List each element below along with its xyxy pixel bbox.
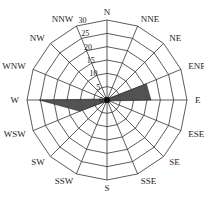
direction-label-ne: NE: [169, 33, 181, 43]
direction-label-w: W: [11, 95, 20, 105]
direction-label-nw: NW: [30, 33, 45, 43]
direction-label-ene: ENE: [188, 61, 204, 71]
tick-label: 20: [84, 43, 92, 52]
tick-label: 10: [90, 69, 98, 78]
wind-rose-chart: 051015202530 NNNENEENEEESESESSESSSWSWWSW…: [0, 0, 204, 200]
direction-label-n: N: [104, 7, 111, 17]
tick-label: 5: [96, 83, 100, 92]
direction-label-wnw: WNW: [2, 61, 26, 71]
direction-label-se: SE: [169, 157, 180, 167]
grid-spoke: [107, 100, 164, 157]
direction-label-wsw: WSW: [4, 129, 27, 139]
direction-label-nne: NNE: [141, 14, 160, 24]
center-dot: [104, 97, 110, 103]
direction-label-sse: SSE: [141, 176, 157, 186]
direction-label-sw: SW: [31, 157, 45, 167]
tick-label: 0: [99, 96, 103, 105]
direction-label-s: S: [104, 183, 109, 193]
tick-label: 25: [81, 29, 89, 38]
direction-label-ese: ESE: [188, 129, 204, 139]
direction-label-e: E: [195, 95, 201, 105]
direction-label-ssw: SSW: [55, 176, 74, 186]
direction-label-nnw: NNW: [52, 14, 74, 24]
tick-label: 30: [79, 16, 87, 25]
tick-label: 15: [87, 56, 95, 65]
